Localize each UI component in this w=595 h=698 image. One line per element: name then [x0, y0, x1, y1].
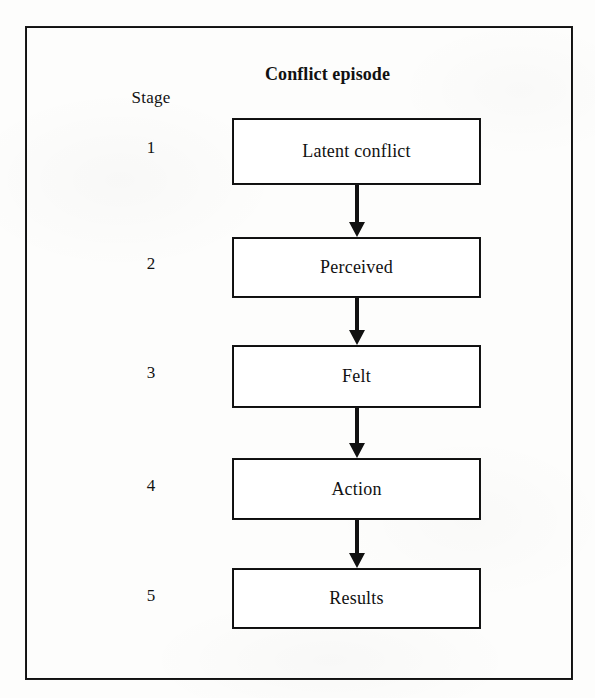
stage-box-label: Action — [331, 479, 381, 500]
stage-number-4: 4 — [108, 476, 194, 496]
stage-box-label: Latent conflict — [302, 141, 410, 162]
arrow-shaft — [355, 185, 359, 222]
stage-number-5: 5 — [108, 586, 194, 606]
stage-number-3: 3 — [108, 363, 194, 383]
stage-number-2: 2 — [108, 254, 194, 274]
arrow-shaft — [355, 408, 359, 443]
stage-box-felt[interactable]: Felt — [232, 345, 481, 408]
figure-title: Conflict episode — [0, 64, 595, 85]
arrow-3-to-4 — [349, 408, 365, 458]
stage-box-label: Felt — [342, 366, 371, 387]
arrow-2-to-3 — [349, 298, 365, 345]
stage-box-action[interactable]: Action — [232, 458, 481, 520]
stage-number-1: 1 — [108, 138, 194, 158]
arrow-shaft — [355, 520, 359, 553]
stage-box-label: Results — [329, 588, 383, 609]
stage-box-perceived[interactable]: Perceived — [232, 237, 481, 298]
stage-column-header: Stage — [108, 88, 194, 108]
arrow-head — [349, 443, 365, 458]
stage-box-results[interactable]: Results — [232, 568, 481, 629]
arrow-1-to-2 — [349, 185, 365, 237]
stage-box-latent-conflict[interactable]: Latent conflict — [232, 118, 481, 185]
stage-box-label: Perceived — [320, 257, 393, 278]
arrow-head — [349, 330, 365, 345]
figure-page: Conflict episode Stage 1 Latent conflict… — [0, 0, 595, 698]
arrow-4-to-5 — [349, 520, 365, 568]
arrow-head — [349, 553, 365, 568]
arrow-shaft — [355, 298, 359, 330]
arrow-head — [349, 222, 365, 237]
